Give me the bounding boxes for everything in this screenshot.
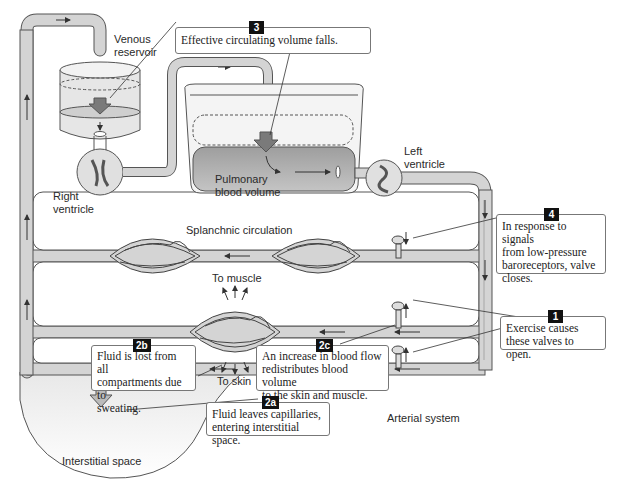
callout-1-line: Exercise causes: [506, 322, 600, 335]
badge-1: 1: [548, 310, 563, 323]
callout-2b-line: Fluid is lost from all: [97, 350, 190, 376]
pulmonary-label-line: blood volume: [215, 186, 280, 199]
left-ventricle-label-line: Left: [404, 145, 445, 158]
badge-3: 3: [249, 21, 264, 34]
left-ventricle-label: Left ventricle: [404, 145, 445, 171]
venous-reservoir-label-line: Venous: [114, 33, 157, 46]
to-skin-label: To skin: [217, 375, 251, 388]
callout-2b-line: sweating.: [97, 402, 190, 415]
venous-reservoir-label-line: reservoir: [114, 46, 157, 59]
callout-2a-line: entering interstitial space.: [212, 421, 324, 447]
pulmonary-blood-volume-label: Pulmonary blood volume: [215, 173, 280, 199]
left-ventricle: [355, 160, 402, 196]
callout-2c-line: redistributes blood volume: [262, 363, 383, 389]
venous-reservoir-label: Venous reservoir: [114, 33, 157, 59]
pulmonary-label-line: Pulmonary: [215, 173, 280, 186]
callout-4-line: closes.: [502, 272, 600, 285]
interstitial-space-label: Interstitial space: [62, 455, 141, 468]
callout-4-line: from low-pressure: [502, 246, 600, 259]
right-ventricle-label: Right ventricle: [53, 190, 94, 216]
badge-2a: 2a: [262, 396, 279, 409]
callout-4-line: In response to signals: [502, 220, 600, 246]
right-ventricle-label-line: ventricle: [53, 203, 94, 216]
badge-4: 4: [544, 208, 559, 221]
callout-2b-line: compartments due to: [97, 376, 190, 402]
splanchnic-circulation-label: Splanchnic circulation: [186, 224, 292, 237]
callout-2a-line: Fluid leaves capillaries,: [212, 408, 324, 421]
badge-2b: 2b: [133, 339, 151, 352]
callout-2c-line: to the skin and muscle.: [262, 389, 383, 402]
callout-4: In response to signals from low-pressure…: [496, 214, 606, 274]
arterial-system-label: Arterial system: [387, 412, 460, 425]
callout-4-line: baroreceptors, valve: [502, 259, 600, 272]
left-ventricle-label-line: ventricle: [404, 158, 445, 171]
right-ventricle-label-line: Right: [53, 190, 94, 203]
callout-3: Effective circulating volume falls.: [175, 27, 371, 54]
callout-3-text: Effective circulating volume falls.: [181, 34, 338, 46]
badge-2c: 2c: [316, 339, 333, 352]
to-muscle-label: To muscle: [212, 272, 262, 285]
callout-1-line: these valves to open.: [506, 335, 600, 361]
